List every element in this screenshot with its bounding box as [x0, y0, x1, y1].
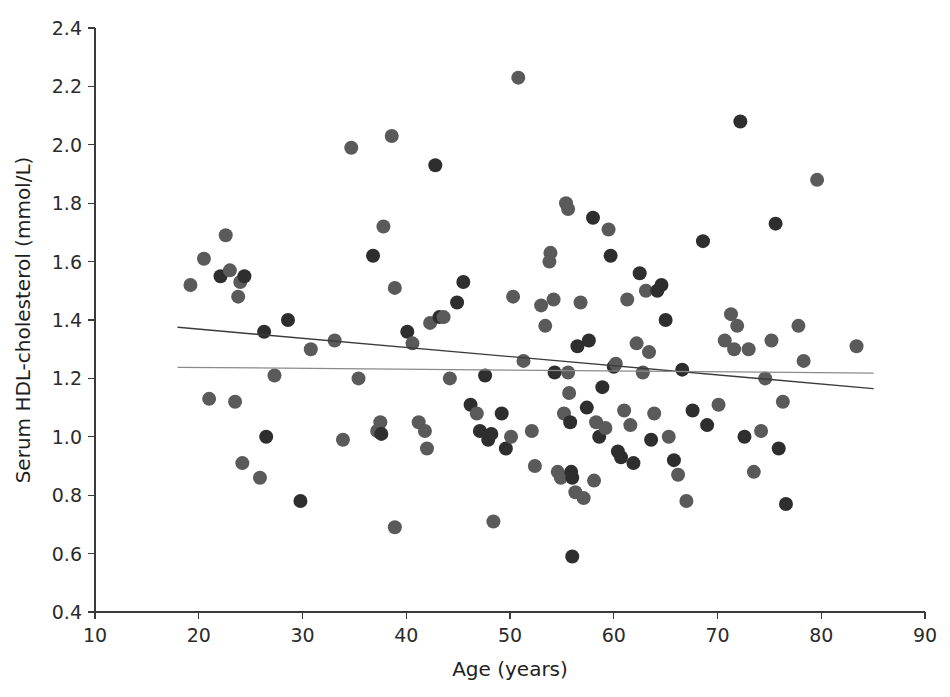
- y-tick-label: 0.6: [52, 543, 82, 565]
- data-point: [580, 401, 594, 415]
- data-point: [769, 217, 783, 231]
- plot-background: [0, 0, 950, 697]
- data-point: [388, 520, 402, 534]
- data-point: [659, 313, 673, 327]
- data-point: [228, 395, 242, 409]
- y-tick-label: 1.6: [52, 251, 82, 273]
- data-point: [257, 325, 271, 339]
- data-point: [385, 129, 399, 143]
- data-point: [779, 497, 793, 511]
- x-tick-label: 30: [290, 624, 314, 646]
- data-point: [231, 290, 245, 304]
- y-tick-label: 2.0: [52, 134, 82, 156]
- data-point: [602, 222, 616, 236]
- data-point: [675, 363, 689, 377]
- data-point: [617, 404, 631, 418]
- data-point: [647, 406, 661, 420]
- chart-figure: 0.40.60.81.01.21.41.61.82.02.22.4 102030…: [0, 0, 950, 697]
- data-point: [733, 114, 747, 128]
- data-point: [730, 319, 744, 333]
- scatter-plot-canvas: 0.40.60.81.01.21.41.61.82.02.22.4 102030…: [0, 0, 950, 697]
- data-point: [374, 427, 388, 441]
- data-point: [547, 293, 561, 307]
- y-tick-label: 1.4: [52, 309, 82, 331]
- data-point: [586, 211, 600, 225]
- data-point: [528, 459, 542, 473]
- data-point: [671, 468, 685, 482]
- data-point: [561, 202, 575, 216]
- data-point: [582, 333, 596, 347]
- data-point: [712, 398, 726, 412]
- data-point: [197, 252, 211, 266]
- data-point: [506, 290, 520, 304]
- data-point: [495, 406, 509, 420]
- data-point: [202, 392, 216, 406]
- y-axis-title: Serum HDL-cholesterol (mmol/L): [11, 157, 35, 484]
- data-point: [219, 228, 233, 242]
- data-point: [654, 278, 668, 292]
- data-point: [376, 220, 390, 234]
- x-tick-label: 10: [83, 624, 107, 646]
- data-point: [259, 430, 273, 444]
- data-point: [344, 141, 358, 155]
- data-point: [667, 453, 681, 467]
- data-point: [223, 263, 237, 277]
- data-point: [577, 491, 591, 505]
- data-point: [644, 433, 658, 447]
- y-tick-label: 0.4: [52, 601, 82, 623]
- data-point: [565, 471, 579, 485]
- data-point: [662, 430, 676, 444]
- data-point: [534, 298, 548, 312]
- data-point: [772, 441, 786, 455]
- data-point: [336, 433, 350, 447]
- data-point: [598, 421, 612, 435]
- data-point: [470, 406, 484, 420]
- data-point: [183, 278, 197, 292]
- data-point: [696, 234, 710, 248]
- y-tick-label: 2.2: [52, 75, 82, 97]
- data-point: [747, 465, 761, 479]
- data-point: [504, 430, 518, 444]
- data-point: [686, 404, 700, 418]
- y-tick-label: 0.8: [52, 484, 82, 506]
- data-point: [511, 71, 525, 85]
- data-point: [727, 342, 741, 356]
- data-point: [764, 333, 778, 347]
- y-tick-label: 2.4: [52, 17, 82, 39]
- data-point: [267, 368, 281, 382]
- data-point: [561, 366, 575, 380]
- data-point: [604, 249, 618, 263]
- data-point: [565, 550, 579, 564]
- data-point: [737, 430, 751, 444]
- data-point: [478, 368, 492, 382]
- data-point: [486, 514, 500, 528]
- data-point: [776, 395, 790, 409]
- data-point: [418, 424, 432, 438]
- x-tick-label: 70: [705, 624, 729, 646]
- data-point: [595, 380, 609, 394]
- data-point: [609, 357, 623, 371]
- data-point: [293, 494, 307, 508]
- data-point: [235, 456, 249, 470]
- data-point: [679, 494, 693, 508]
- data-point: [642, 345, 656, 359]
- x-axis-title: Age (years): [452, 657, 568, 681]
- data-point: [450, 295, 464, 309]
- data-point: [304, 342, 318, 356]
- data-point: [437, 310, 451, 324]
- data-point: [352, 371, 366, 385]
- y-tick-label: 1.0: [52, 426, 82, 448]
- data-point: [630, 336, 644, 350]
- data-point: [614, 450, 628, 464]
- x-tick-label: 60: [602, 624, 626, 646]
- data-point: [548, 366, 562, 380]
- x-tick-label: 90: [913, 624, 937, 646]
- data-point: [850, 339, 864, 353]
- y-tick-label: 1.2: [52, 367, 82, 389]
- data-point: [456, 275, 470, 289]
- data-point: [700, 418, 714, 432]
- x-tick-label: 20: [187, 624, 211, 646]
- data-point: [626, 456, 640, 470]
- data-point: [633, 266, 647, 280]
- data-point: [237, 269, 251, 283]
